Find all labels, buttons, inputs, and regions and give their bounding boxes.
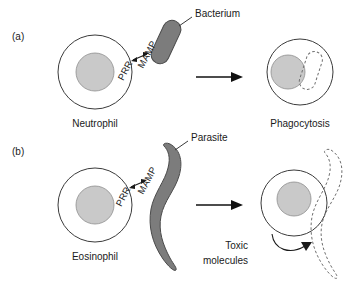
- parasite-leader-line: [175, 141, 188, 150]
- panel-a-group: (a) Neutrophil Bacterium PRR MAMP: [12, 8, 333, 129]
- panel-b-label: (b): [12, 146, 24, 157]
- mamp-label-b: MAMP: [135, 165, 158, 196]
- parasite-shape: [150, 143, 181, 270]
- parasite-label: Parasite: [191, 132, 228, 143]
- bacterium-leader-line: [179, 17, 192, 26]
- panel-a-label: (a): [12, 31, 24, 42]
- degranulation-nucleus: [277, 182, 311, 216]
- process-arrow-b: [196, 200, 243, 210]
- panel-b-group: (b) Eosinophil Parasite PRR MAMP: [12, 132, 342, 278]
- process-arrow-a: [196, 72, 243, 82]
- bacterium-label: Bacterium: [195, 8, 240, 19]
- neutrophil-nucleus: [76, 53, 114, 91]
- eosinophil-label: Eosinophil: [72, 251, 118, 262]
- toxic-molecules-label-line2: molecules: [203, 255, 248, 266]
- immune-response-figure: (a) Neutrophil Bacterium PRR MAMP: [0, 0, 353, 285]
- toxic-molecules-label-line1: Toxic: [225, 240, 248, 251]
- phagocytosis-label: Phagocytosis: [270, 118, 329, 129]
- toxic-molecules-arrow: [272, 234, 312, 251]
- degranulation-cell: [261, 170, 327, 236]
- neutrophil-label: Neutrophil: [72, 118, 118, 129]
- figure-canvas: (a) Neutrophil Bacterium PRR MAMP: [0, 0, 353, 285]
- eosinophil-nucleus: [76, 186, 114, 224]
- phagocytosis-cell: [267, 39, 333, 105]
